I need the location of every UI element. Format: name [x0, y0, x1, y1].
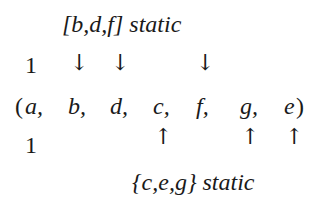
sequence-item-f: f,: [196, 94, 209, 118]
bottom-label-word: static: [203, 169, 255, 195]
top-label: [b,d,f] static: [62, 12, 181, 36]
bottom-label-set: {c,e,g}: [132, 169, 197, 195]
top-label-set: [b,d,f]: [62, 11, 123, 37]
sequence-close-paren: ): [296, 94, 304, 118]
sequence-item-d: d,: [110, 94, 128, 118]
bottom-row-value: 1: [25, 133, 37, 157]
sequence-item-a: a,: [25, 94, 43, 118]
sequence-item-e: e: [284, 94, 295, 118]
bottom-label: {c,e,g} static: [132, 170, 255, 194]
down-arrow-icon: ↓: [196, 52, 214, 74]
top-row-value: 1: [25, 53, 37, 77]
up-arrow-icon: ↑: [154, 126, 172, 148]
sequence-open-paren: (: [15, 94, 23, 118]
sequence-item-g: g,: [240, 94, 258, 118]
sequence-item-c: c,: [153, 94, 170, 118]
sequence-item-b: b,: [68, 94, 86, 118]
down-arrow-icon: ↓: [111, 52, 129, 74]
top-label-word: static: [129, 11, 181, 37]
down-arrow-icon: ↓: [70, 52, 88, 74]
up-arrow-icon: ↑: [241, 126, 259, 148]
up-arrow-icon: ↑: [285, 126, 303, 148]
